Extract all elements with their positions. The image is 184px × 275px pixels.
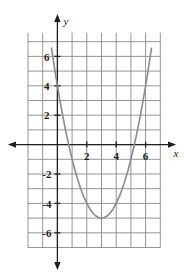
y-tick-label-4: 4 <box>44 80 50 92</box>
coordinate-plane-figure: 2 4 6 6 4 2 -2 -4 -6 x y <box>0 0 184 275</box>
y-tick-label-neg2: -2 <box>42 168 52 180</box>
x-tick-label-2: 2 <box>84 150 90 162</box>
y-tick-label-6: 6 <box>44 51 50 63</box>
x-axis-label: x <box>173 147 179 159</box>
y-tick-label-neg4: -4 <box>42 198 52 210</box>
y-tick-label-2: 2 <box>44 109 50 121</box>
x-tick-label-6: 6 <box>143 150 149 162</box>
y-axis-label: y <box>63 15 69 27</box>
x-tick-label-4: 4 <box>113 150 119 162</box>
graph-canvas: 2 4 6 6 4 2 -2 -4 -6 x y <box>0 0 184 275</box>
y-tick-label-neg6: -6 <box>42 227 52 239</box>
